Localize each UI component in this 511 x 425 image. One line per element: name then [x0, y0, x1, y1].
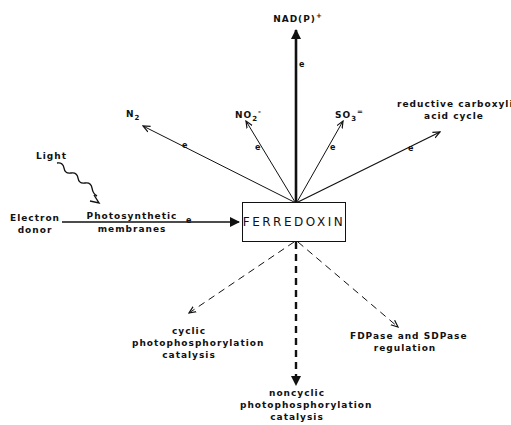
arrow-carboxylic: [298, 132, 440, 202]
arrow-cyclic: [189, 242, 294, 313]
electron-marker-no2: e: [255, 143, 260, 152]
electron-marker-carboxylic: e: [408, 144, 413, 153]
arrow-n2: [143, 126, 294, 202]
label-no2: NO2-: [235, 106, 262, 125]
ferredoxin-label: FERREDOXIN: [243, 215, 345, 229]
label-light: Light: [36, 150, 67, 162]
electron-marker-so3: e: [330, 143, 335, 152]
label-electron-donor: Electron donor: [10, 212, 60, 236]
light-arrowhead: [90, 195, 99, 203]
electron-marker-nadp: e: [299, 60, 304, 69]
label-carboxylic: reductive carboxylic acid cycle: [397, 98, 511, 122]
ferredoxin-box: FERREDOXIN: [242, 202, 346, 242]
label-membranes: Photosynthetic membranes: [80, 210, 184, 236]
label-nadp: NAD(P)+: [266, 10, 330, 25]
label-noncyclic: noncyclic photophosphorylation catalysis: [240, 387, 354, 423]
label-cyclic: cyclic photophosphorylation catalysis: [132, 325, 246, 361]
electron-marker-donor: e: [186, 216, 191, 225]
label-so3: SO3=: [335, 106, 364, 125]
light-wave: [57, 163, 97, 196]
electron-marker-n2: e: [182, 141, 187, 150]
arrow-so3: [297, 121, 343, 202]
label-n2: N2: [126, 108, 140, 124]
label-fdpase: FDPase and SDPase regulation: [350, 330, 460, 354]
arrow-fdpase: [298, 242, 398, 327]
